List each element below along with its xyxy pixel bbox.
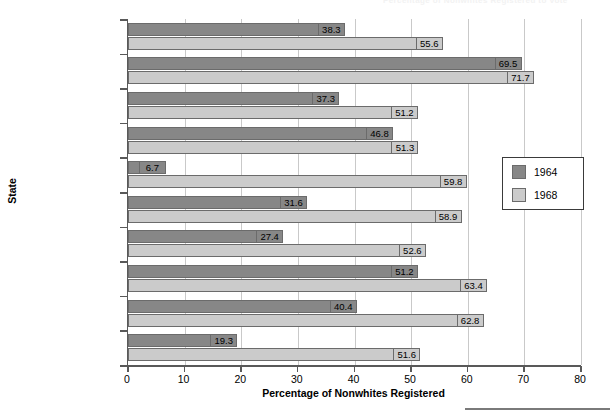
category-tick xyxy=(120,54,127,56)
category-tick xyxy=(120,123,127,125)
clipped-title-remnant: Percentage of Nonwhites Registered to Vo… xyxy=(383,0,598,7)
x-tick-label: 60 xyxy=(447,373,487,385)
bar-north-carolina-1968 xyxy=(128,244,426,257)
bar-georgia-1968 xyxy=(128,141,418,154)
category-tick xyxy=(120,88,127,90)
category-tick xyxy=(120,227,127,229)
category-tick xyxy=(120,261,127,263)
x-tick xyxy=(580,366,582,372)
x-tick xyxy=(410,366,412,372)
x-tick-label: 30 xyxy=(277,373,317,385)
bar-value-label: 19.3 xyxy=(210,334,237,347)
category-tick xyxy=(120,330,127,332)
legend-swatch-icon-1968 xyxy=(512,188,526,202)
bar-tennessee-1968 xyxy=(128,314,484,327)
bar-alabama-1968 xyxy=(128,37,443,50)
bar-value-label: 51.3 xyxy=(391,141,418,154)
bar-virginia-1968 xyxy=(128,348,420,361)
x-tick-label: 70 xyxy=(503,373,543,385)
x-tick-label: 0 xyxy=(107,373,147,385)
bar-florida-1964 xyxy=(128,92,339,105)
legend-label-1968: 1968 xyxy=(534,188,557,202)
bar-mississippi-1968 xyxy=(128,210,462,223)
legend: 1964 1968 xyxy=(502,157,584,210)
x-tick xyxy=(523,366,525,372)
bar-florida-1968 xyxy=(128,106,418,119)
x-tick xyxy=(240,366,242,372)
x-tick-label: 20 xyxy=(220,373,260,385)
x-tick-label: 80 xyxy=(560,373,600,385)
bar-tennessee-1964 xyxy=(128,300,357,313)
footer-rule xyxy=(465,408,610,410)
bar-georgia-1964 xyxy=(128,127,393,140)
x-tick xyxy=(467,366,469,372)
category-tick xyxy=(120,157,127,159)
category-tick xyxy=(120,365,127,367)
bar-arkansas-1964 xyxy=(128,57,522,70)
bar-value-label: 71.7 xyxy=(507,71,534,84)
bar-value-label: 51.2 xyxy=(391,106,418,119)
legend-label-1964: 1964 xyxy=(534,165,557,179)
x-tick xyxy=(297,366,299,372)
bar-value-label: 51.2 xyxy=(391,265,418,278)
bar-value-label: 59.8 xyxy=(440,175,467,188)
bar-arkansas-1968 xyxy=(128,71,534,84)
bar-value-label: 63.4 xyxy=(460,279,487,292)
bar-value-label: 55.6 xyxy=(416,37,443,50)
bar-south-carolina-1964 xyxy=(128,265,418,278)
bar-value-label: 51.6 xyxy=(393,348,420,361)
legend-swatch-icon-1964 xyxy=(512,165,526,179)
x-tick-label: 40 xyxy=(334,373,374,385)
x-tick-label: 10 xyxy=(164,373,204,385)
x-tick-label: 50 xyxy=(390,373,430,385)
bar-value-label: 6.7 xyxy=(139,161,166,174)
bar-louisiana-1968 xyxy=(128,175,467,188)
bar-south-carolina-1968 xyxy=(128,279,487,292)
x-axis-title: Percentage of Nonwhites Registered xyxy=(127,387,580,399)
x-tick xyxy=(184,366,186,372)
category-tick xyxy=(120,19,127,21)
bar-value-label: 31.6 xyxy=(280,196,307,209)
category-tick xyxy=(120,192,127,194)
bar-value-label: 40.4 xyxy=(330,300,357,313)
bar-value-label: 52.6 xyxy=(399,244,426,257)
x-tick xyxy=(354,366,356,372)
y-axis-title: State xyxy=(6,161,18,221)
category-tick xyxy=(120,296,127,298)
bar-value-label: 46.8 xyxy=(366,127,393,140)
bar-value-label: 69.5 xyxy=(495,57,522,70)
bar-value-label: 27.4 xyxy=(256,230,283,243)
bar-value-label: 38.3 xyxy=(318,23,345,36)
x-tick xyxy=(127,366,129,372)
bar-value-label: 62.8 xyxy=(457,314,484,327)
bar-chart-figure: Percentage of Nonwhites Registered to Vo… xyxy=(0,0,610,415)
bar-value-label: 58.9 xyxy=(435,210,462,223)
bar-alabama-1964 xyxy=(128,23,345,36)
bar-value-label: 37.3 xyxy=(312,92,339,105)
